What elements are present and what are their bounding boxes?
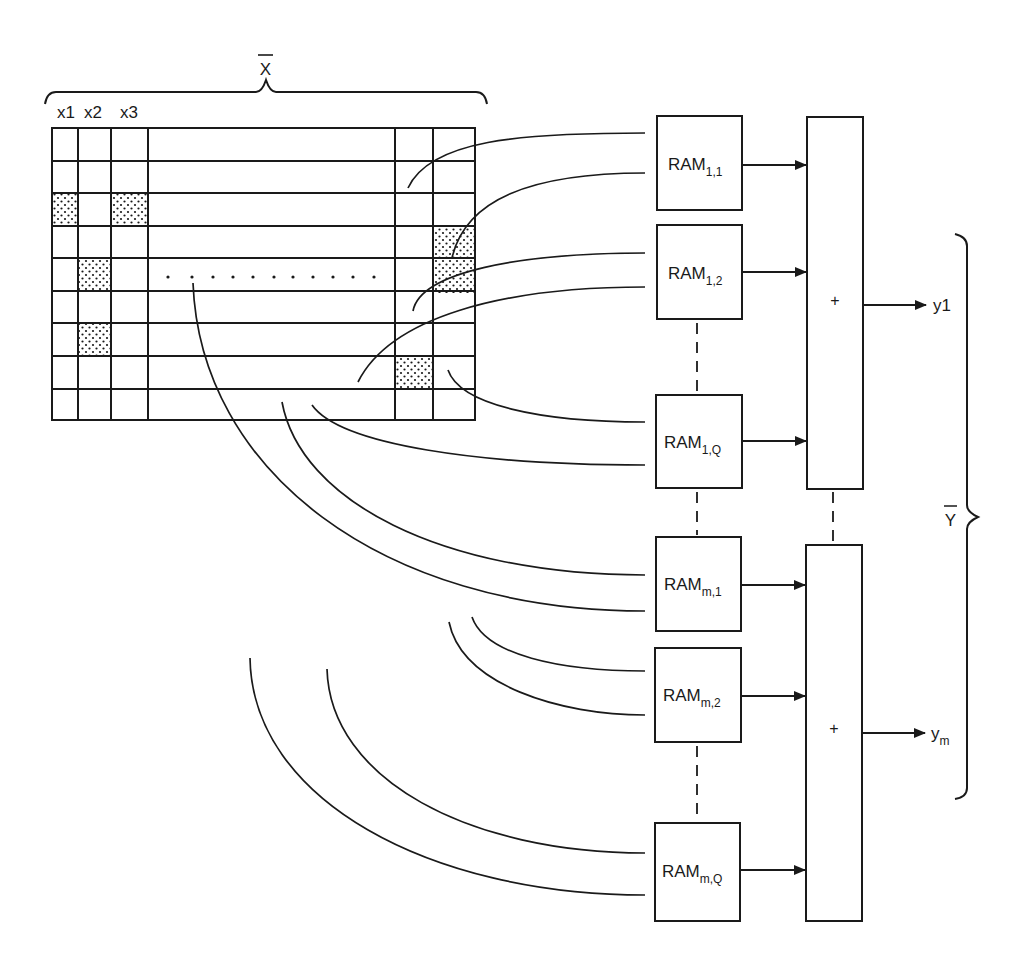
discriminator-m: RAMm,1 RAMm,2 RAMm,Q + ym	[655, 537, 950, 921]
svg-text:Y: Y	[945, 511, 956, 530]
svg-text:RAM1,2: RAM1,2	[668, 264, 723, 288]
input-grid	[52, 128, 475, 420]
ram-1-1: RAM1,1	[657, 116, 742, 210]
svg-text:RAMm,Q: RAMm,Q	[662, 862, 722, 886]
svg-text:X: X	[260, 60, 271, 79]
output-label-ym: ym	[931, 724, 950, 748]
ram-m-1: RAMm,1	[656, 537, 741, 631]
ram-discriminator-diagram: X x1 x2 x3	[0, 0, 1030, 976]
ellipsis-dots	[166, 275, 375, 278]
input-vector-brace	[45, 80, 487, 104]
svg-text:RAMm,1: RAMm,1	[664, 575, 722, 599]
svg-text:RAM1,Q: RAM1,Q	[664, 433, 721, 457]
svg-text:+: +	[830, 292, 839, 309]
connection-wires	[193, 133, 645, 895]
discriminator-1: RAM1,1 RAM1,2 RAM1,Q + y1	[656, 116, 951, 489]
output-label-y1: y1	[933, 296, 951, 315]
adder-1: +	[807, 117, 863, 489]
ram-m-q: RAMm,Q	[655, 823, 740, 921]
svg-text:+: +	[829, 720, 838, 737]
output-vector-brace	[955, 234, 978, 799]
column-label-x2: x2	[84, 103, 102, 122]
column-label-x3: x3	[120, 103, 138, 122]
adder-m: +	[806, 545, 862, 921]
ram-1-q: RAM1,Q	[656, 395, 742, 488]
column-label-x1: x1	[57, 103, 75, 122]
ram-m-2: RAMm,2	[655, 648, 741, 742]
input-vector-label: X	[258, 55, 273, 79]
svg-text:RAM1,1: RAM1,1	[668, 155, 723, 179]
output-vector-label: Y	[944, 506, 957, 530]
svg-text:RAMm,2: RAMm,2	[663, 686, 721, 710]
ram-1-2: RAM1,2	[657, 225, 742, 319]
